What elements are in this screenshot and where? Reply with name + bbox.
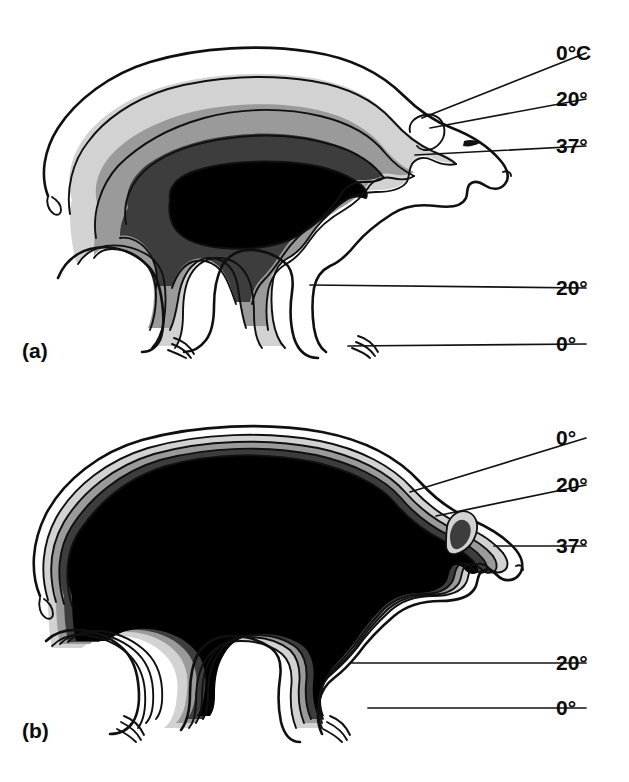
panel-a-label: (a) — [22, 339, 48, 362]
panel-a-temp-label-0-lower: 0° — [556, 332, 576, 355]
panel-a-leader-20b — [310, 285, 586, 288]
panel-b-temp-label-37: 37° — [556, 534, 588, 557]
panel-b-temp-label-0-lower: 0° — [556, 696, 576, 719]
panel-a-temp-label-0c: 0°C — [556, 41, 591, 64]
panel-b-temp-label-20-lower: 20° — [556, 651, 588, 674]
panel-a-temp-label-20: 20° — [556, 87, 588, 110]
panel-b-label: (b) — [22, 719, 49, 742]
panel-a-temp-label-20-lower: 20° — [556, 276, 588, 299]
panel-b-temp-label-0: 0° — [556, 426, 576, 449]
panel-b-temp-label-20: 20° — [556, 473, 588, 496]
panel-a-leader-0b — [348, 344, 586, 346]
panel-b-group: (b) 0° 20° 37° 20° 0° — [22, 426, 588, 742]
panel-a-group: (a) 0°C 20° 37° 20° 0° — [22, 41, 591, 362]
thermal-diagram-figure: (a) 0°C 20° 37° 20° 0° — [0, 0, 629, 782]
panel-a-temp-label-37: 37° — [556, 134, 588, 157]
bear-thermogram-svg: (a) 0°C 20° 37° 20° 0° — [0, 0, 629, 782]
